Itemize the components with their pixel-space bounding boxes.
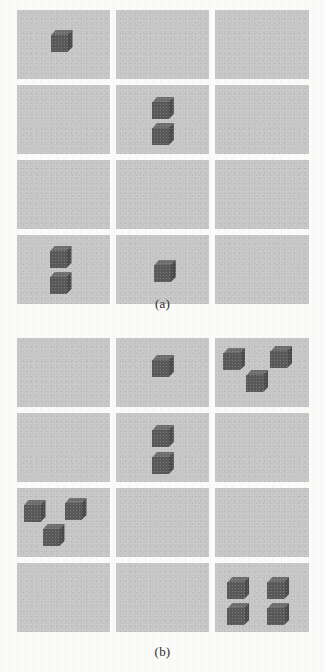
- stimulus-cell[interactable]: [17, 413, 110, 482]
- stimulus-cell[interactable]: [215, 160, 308, 229]
- cube-glyph: [154, 260, 176, 282]
- cube-front-face: [65, 503, 82, 520]
- cube-front-face: [51, 35, 68, 52]
- cube-glyph: [152, 425, 174, 447]
- panel-caption-a: (a): [0, 296, 325, 312]
- stimulus-cell[interactable]: [116, 563, 209, 632]
- stimulus-cell[interactable]: [17, 160, 110, 229]
- stimulus-cell[interactable]: [116, 85, 209, 154]
- stimulus-cell[interactable]: [116, 488, 209, 557]
- cube-front-face: [246, 375, 263, 392]
- cube-glyph: [152, 97, 174, 119]
- cube-glyph: [51, 30, 73, 52]
- figure-panel-b: (b): [0, 329, 325, 632]
- cube-front-face: [24, 505, 41, 522]
- stimulus-cell[interactable]: [17, 563, 110, 632]
- cube-front-face: [270, 351, 287, 368]
- stimulus-cell[interactable]: [215, 413, 308, 482]
- cube-glyph: [65, 498, 87, 520]
- stimulus-grid-a: [17, 0, 309, 304]
- cube-front-face: [267, 608, 284, 625]
- scanned-page: (a) (b): [0, 0, 325, 672]
- stimulus-cell[interactable]: [116, 235, 209, 304]
- cube-glyph: [43, 524, 65, 546]
- cube-front-face: [152, 102, 169, 119]
- cube-front-face: [154, 265, 171, 282]
- cube-front-face: [152, 457, 169, 474]
- cube-glyph: [152, 123, 174, 145]
- stimulus-cell[interactable]: [215, 563, 308, 632]
- cube-front-face: [43, 529, 60, 546]
- cube-glyph: [227, 603, 249, 625]
- stimulus-cell[interactable]: [17, 10, 110, 79]
- stimulus-cell[interactable]: [116, 160, 209, 229]
- stimulus-cell[interactable]: [17, 338, 110, 407]
- stimulus-cell[interactable]: [116, 10, 209, 79]
- cube-front-face: [223, 353, 240, 370]
- cube-glyph: [152, 452, 174, 474]
- stimulus-grid-b: [17, 329, 309, 632]
- stimulus-cell[interactable]: [17, 85, 110, 154]
- cube-glyph: [246, 370, 268, 392]
- cube-front-face: [50, 277, 67, 294]
- cube-front-face: [152, 360, 169, 377]
- stimulus-cell[interactable]: [215, 338, 308, 407]
- cube-front-face: [227, 608, 244, 625]
- cube-glyph: [223, 348, 245, 370]
- stimulus-cell[interactable]: [116, 338, 209, 407]
- stimulus-cell[interactable]: [215, 235, 308, 304]
- cube-front-face: [152, 128, 169, 145]
- cube-glyph: [24, 500, 46, 522]
- stimulus-cell[interactable]: [215, 488, 308, 557]
- figure-panel-a: (a): [0, 0, 325, 304]
- stimulus-cell[interactable]: [17, 488, 110, 557]
- cube-glyph: [227, 577, 249, 599]
- cube-front-face: [50, 251, 67, 268]
- cube-front-face: [152, 430, 169, 447]
- cube-front-face: [227, 582, 244, 599]
- cube-glyph: [50, 272, 72, 294]
- stimulus-cell[interactable]: [17, 235, 110, 304]
- cube-glyph: [50, 246, 72, 268]
- cube-glyph: [152, 355, 174, 377]
- panel-caption-b: (b): [0, 644, 325, 660]
- cube-glyph: [270, 346, 292, 368]
- cube-glyph: [267, 577, 289, 599]
- stimulus-cell[interactable]: [116, 413, 209, 482]
- stimulus-cell[interactable]: [215, 85, 308, 154]
- cube-front-face: [267, 582, 284, 599]
- cube-glyph: [267, 603, 289, 625]
- stimulus-cell[interactable]: [215, 10, 308, 79]
